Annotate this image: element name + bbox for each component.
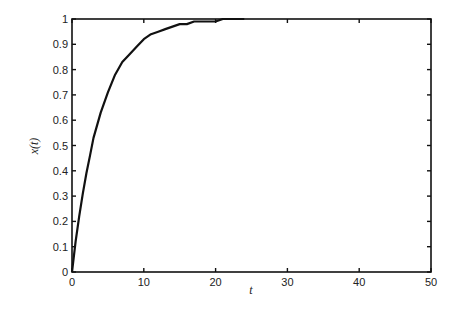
y-tick-label: 0.9 <box>53 38 68 50</box>
y-tick-label: 0.1 <box>53 241 68 253</box>
x-axis-label: t <box>249 283 253 297</box>
x-tick-label: 50 <box>425 276 437 288</box>
x-tick-label: 10 <box>138 276 150 288</box>
y-tick-label: 0.2 <box>53 215 68 227</box>
y-tick-label: 0.3 <box>53 190 68 202</box>
y-tick-label: 0.8 <box>53 64 68 76</box>
x-tick-label: 20 <box>209 276 221 288</box>
y-axis-ticks: 00.10.20.30.40.50.60.70.80.91 <box>53 13 431 278</box>
y-tick-label: 0.7 <box>53 89 68 101</box>
series-line-x-of-t <box>72 19 244 272</box>
y-axis-label: x(t) <box>27 138 41 156</box>
x-tick-label: 0 <box>69 276 75 288</box>
y-tick-label: 0.5 <box>53 140 68 152</box>
x-tick-label: 30 <box>281 276 293 288</box>
y-tick-label: 0.6 <box>53 114 68 126</box>
y-tick-label: 0 <box>62 266 68 278</box>
y-tick-label: 1 <box>62 13 68 25</box>
x-tick-label: 40 <box>353 276 365 288</box>
line-chart: 01020304050 00.10.20.30.40.50.60.70.80.9… <box>0 0 459 309</box>
y-tick-label: 0.4 <box>53 165 68 177</box>
